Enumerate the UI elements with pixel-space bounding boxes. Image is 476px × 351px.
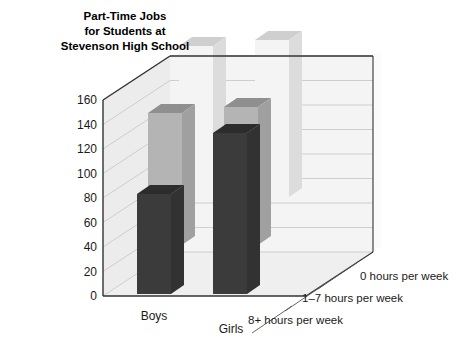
category-label-girls: Girls <box>219 322 244 336</box>
chart-container: 160 140 120 100 80 60 40 20 0 Boys Girls… <box>0 0 476 351</box>
right-wall <box>373 50 381 252</box>
category-label-boys: Boys <box>141 309 168 323</box>
chart-title-line-1: Part-Time Jobs <box>84 10 167 22</box>
legend-label-1-7-hours[interactable]: 1–7 hours per week <box>302 292 403 304</box>
y-tick-label: 120 <box>77 142 97 156</box>
y-tick-label: 40 <box>84 240 98 254</box>
y-tick-label: 80 <box>84 191 98 205</box>
bar-girls-8-plus-hours <box>213 124 260 294</box>
bar-boys-8-plus-hours <box>137 185 184 294</box>
bar-side <box>247 124 260 294</box>
y-tick-label: 100 <box>77 167 97 181</box>
y-tick-label: 0 <box>90 289 97 303</box>
part-time-jobs-3d-bar-chart: 160 140 120 100 80 60 40 20 0 Boys Girls… <box>0 0 476 351</box>
legend-label-8-plus-hours[interactable]: 8+ hours per week <box>248 314 343 326</box>
y-tick-label: 160 <box>77 93 97 107</box>
bar-front <box>137 194 171 294</box>
chart-title-line-3: Stevenson High School <box>61 40 189 52</box>
y-tick-label: 60 <box>84 216 98 230</box>
legend-label-0-hours[interactable]: 0 hours per week <box>360 270 448 282</box>
y-tick-label: 20 <box>84 265 98 279</box>
bar-side <box>171 185 184 294</box>
bar-front <box>213 133 247 294</box>
y-tick-label: 140 <box>77 118 97 132</box>
chart-title-line-2: for Students at <box>84 25 165 37</box>
